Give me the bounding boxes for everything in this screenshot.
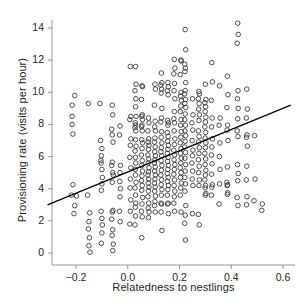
- y-tick-label: 12: [18, 53, 44, 65]
- scatter-plot-figure: Provisioning rate (visits per hour) Rela…: [0, 0, 303, 308]
- y-tick-label: 14: [18, 21, 44, 33]
- y-tick-label: 0: [18, 246, 44, 258]
- x-tick-label: 0.6: [263, 271, 303, 283]
- y-tick-label: 4: [18, 182, 44, 194]
- y-tick-label: 10: [18, 85, 44, 97]
- plot-background: [0, 0, 303, 308]
- y-tick-label: 8: [18, 117, 44, 129]
- y-tick-label: 2: [18, 214, 44, 226]
- x-tick-label: 0.2: [160, 271, 200, 283]
- x-tick-label: −0.2: [56, 271, 96, 283]
- plot-canvas: [0, 0, 303, 308]
- x-tick-label: 0.4: [211, 271, 251, 283]
- x-tick-label: 0.0: [108, 271, 148, 283]
- y-tick-label: 6: [18, 150, 44, 162]
